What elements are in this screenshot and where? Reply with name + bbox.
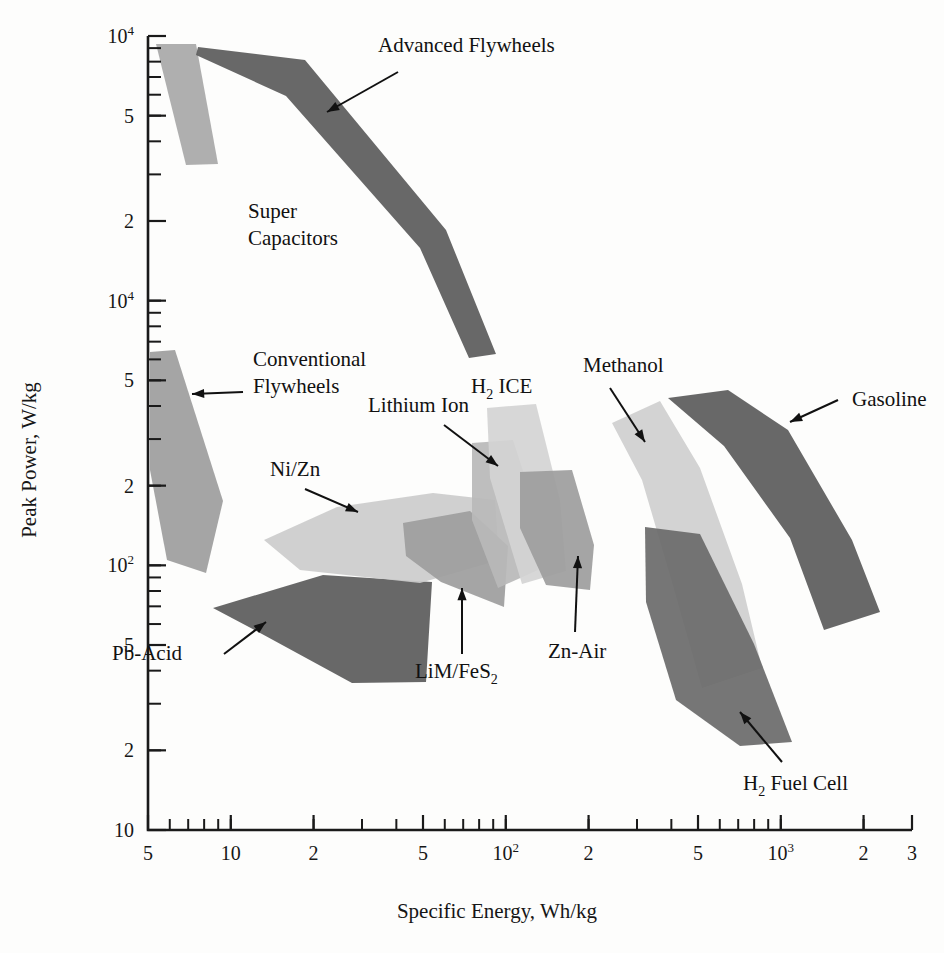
chart-canvas: 510251022510323 10452104521025210 SuperC…: [0, 0, 944, 953]
leader-line: [327, 72, 398, 112]
leader-arrowhead: [192, 389, 204, 398]
x-tick-label: 3: [907, 842, 917, 864]
region-label-advanced-flywheels: Advanced Flywheels: [378, 33, 555, 57]
y-tick-label: 2: [124, 475, 134, 497]
region-label-super-capacitors: SuperCapacitors: [248, 199, 338, 250]
leader-arrowhead: [790, 413, 803, 422]
x-tick-label: 5: [693, 842, 703, 864]
y-axis-title: Peak Power, W/kg: [17, 382, 41, 538]
y-tick-label: 2: [124, 210, 134, 232]
x-axis-ticks: [148, 815, 912, 830]
x-tick-label: 10: [221, 842, 241, 864]
region-label-pb-acid: Pb-Acid: [112, 641, 182, 665]
region-super-capacitors[interactable]: [156, 44, 218, 165]
region-label-conventional-flywheels: ConventionalFlywheels: [253, 347, 366, 398]
y-axis-tick-labels: 10452104521025210: [108, 23, 135, 841]
y-tick-label: 5: [124, 369, 134, 391]
x-tick-label: 2: [584, 842, 594, 864]
x-tick-label: 2: [859, 842, 869, 864]
x-tick-label: 102: [493, 840, 520, 864]
y-tick-label: 2: [124, 739, 134, 761]
y-tick-label: 104: [108, 23, 135, 47]
region-label-zn-air: Zn-Air: [548, 639, 606, 663]
ragone-chart: 510251022510323 10452104521025210 SuperC…: [0, 0, 944, 953]
region-label-lim-fes2: LiM/FeS2: [415, 659, 498, 687]
region-advanced-flywheels[interactable]: [196, 47, 496, 358]
region-label-methanol: Methanol: [583, 353, 664, 377]
region-conventional-flywheels[interactable]: [150, 350, 223, 573]
region-label-h2-fuel-cell: H2 Fuel Cell: [743, 771, 848, 799]
region-label-h2-ice: H2 ICE: [471, 374, 532, 402]
x-tick-label: 103: [768, 840, 795, 864]
y-tick-label: 104: [108, 288, 135, 312]
x-tick-label: 2: [309, 842, 319, 864]
region-pb-acid[interactable]: [213, 575, 432, 683]
x-tick-label: 5: [418, 842, 428, 864]
x-axis-tick-labels: 510251022510323: [143, 840, 917, 864]
region-label-lithium-ion: Lithium Ion: [368, 393, 469, 417]
y-tick-label: 102: [108, 552, 135, 576]
x-tick-label: 5: [143, 842, 153, 864]
x-axis-title: Specific Energy, Wh/kg: [397, 899, 598, 923]
y-tick-label: 5: [124, 105, 134, 127]
region-label-gasoline: Gasoline: [852, 387, 927, 411]
y-tick-label: 10: [114, 819, 134, 841]
region-label-ni-zn: Ni/Zn: [270, 457, 321, 481]
